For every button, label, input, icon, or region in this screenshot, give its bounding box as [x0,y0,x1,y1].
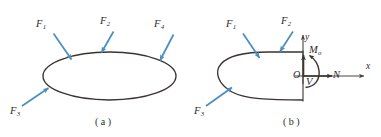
force-arrow-f3-a [22,88,49,106]
force-arrow-f2-b [280,32,293,52]
panel-caption-a: ( a ) [95,117,111,127]
force-arrow-f1-b [243,34,260,59]
x-axis-label: x [366,62,370,72]
force-label-f1-a: F1 [36,19,46,30]
force-arrow-f2-a [102,32,114,53]
force-label-f1-b: F1 [226,19,236,30]
body-outline-b [218,52,303,100]
panel-a-group [22,32,176,107]
force-label-f3-a: F3 [10,106,20,117]
figure-root: F1 F2 F4 F3 ( a ) F1 F2 F3 y x O Mo N V … [0,0,381,137]
force-label-f3-b: F3 [194,106,204,117]
figure-canvas [0,0,381,137]
panel-caption-b: ( b ) [283,117,300,127]
force-label-f2-b: F2 [281,16,291,27]
moment-label: Mo [309,45,321,56]
shear-force-label: V [306,77,312,88]
force-arrow-f3-b [206,88,232,107]
force-arrow-f4-a [160,35,174,61]
y-axis-label: y [305,33,309,43]
force-arrow-f1-a [54,34,72,60]
panel-b-group [206,32,364,107]
body-outline-a [43,52,176,100]
force-label-f4-a: F4 [154,19,164,30]
origin-label: O [293,70,300,80]
force-label-f2-a: F2 [100,16,110,27]
normal-force-label: N [333,70,340,81]
